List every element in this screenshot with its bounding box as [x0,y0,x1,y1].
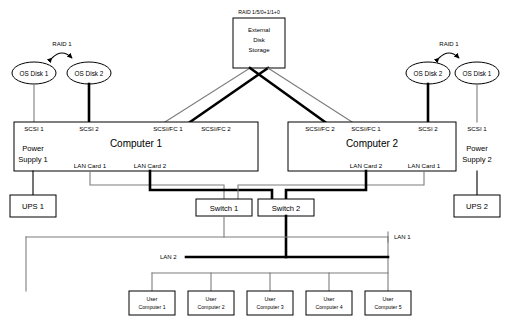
user-computer-2-box[interactable] [188,291,234,315]
computer-2-port-scsifc-2: SCSI/FC 2 [305,125,335,132]
computer-2-name: Computer 2 [346,138,399,149]
computer-1-lan-card-2: LAN Card 2 [134,162,167,169]
user-computer-2-line2: Computer 2 [197,304,224,310]
user-computer-4-line1: User [324,296,335,302]
user-computer-5-line1: User [383,296,394,302]
computer-1-port-scsifc-1: SCSI/FC 1 [153,125,183,132]
raid-label-right: RAID 1 [439,41,459,47]
computer-2-power-supply-line1: Power [466,144,488,153]
computer-2-power-supply-line2: Supply 2 [462,155,492,164]
network-diagram-canvas: RAID 1/5/0+1/1+0 External Disk Storage R… [0,0,511,331]
computer-1-name: Computer 1 [110,138,163,149]
switch-1-label: Switch 1 [210,204,239,213]
os-disk-right-2-label: OS Disk 1 [463,70,492,77]
storage-raid-label: RAID 1/5/0+1/1+0 [238,9,280,15]
user-computer-5-line2: Computer 5 [374,304,401,310]
user-computer-4-line2: Computer 4 [315,304,342,310]
user-computer-3-box[interactable] [247,291,293,315]
computer-2-lan-card-2: LAN Card 2 [350,162,383,169]
os-disk-left-2-label: OS Disk 2 [75,70,104,77]
storage-label-line1: External [248,27,270,33]
storage-label-line2: Disk [253,37,266,43]
ups-2-label: UPS 2 [466,202,488,211]
lan-2-label: LAN 2 [160,254,177,260]
os-disk-right-1-label: OS Disk 2 [414,70,443,77]
storage-label-line3: Storage [248,47,270,53]
computer-1-lan-card-1: LAN Card 1 [74,162,107,169]
ups-1-label: UPS 1 [22,202,44,211]
user-computer-3-line1: User [265,296,276,302]
computer-2-lan-card-1: LAN Card 1 [408,162,441,169]
user-computer-1-box[interactable] [129,291,175,315]
computer-2-port-scsifc-1: SCSI/FC 1 [351,125,381,132]
computer-1-power-supply-line2: Supply 1 [18,155,48,164]
topology-svg: RAID 1/5/0+1/1+0 External Disk Storage R… [0,0,511,331]
lan-1-label: LAN 1 [394,234,411,240]
computer-1-port-scsi-1: SCSI 1 [24,125,44,132]
computer-2-port-scsi-2: SCSI 2 [418,125,438,132]
user-computer-5-box[interactable] [365,291,411,315]
user-computer-1-line1: User [147,296,158,302]
user-computer-1-line2: Computer 1 [138,304,165,310]
computer-1-power-supply-line1: Power [22,144,44,153]
external-disk-storage-box[interactable] [233,18,285,68]
computer-2-port-scsi-1: SCSI 1 [467,125,487,132]
os-disk-left-1-label: OS Disk 1 [20,70,49,77]
switch-2-label: Switch 2 [272,204,301,213]
user-computer-2-line1: User [206,296,217,302]
user-computer-3-line2: Computer 3 [256,304,283,310]
user-computer-4-box[interactable] [306,291,352,315]
raid-label-left: RAID 1 [52,41,72,47]
computer-1-port-scsifc-2: SCSI/FC 2 [201,125,231,132]
computer-1-port-scsi-2: SCSI 2 [79,125,99,132]
